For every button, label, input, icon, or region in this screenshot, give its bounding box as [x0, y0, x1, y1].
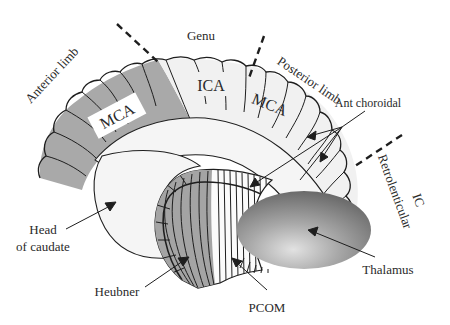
- anterior-genu-divider: [117, 24, 158, 62]
- internal-capsule-diagram: MCA ICA MCA Anterior limb Genu Posterior…: [0, 0, 450, 325]
- thalamus: [237, 191, 371, 269]
- thalamus-label: Thalamus: [362, 262, 413, 277]
- pcom-label: PCOM: [249, 300, 286, 315]
- heubner-label: Heubner: [95, 284, 140, 299]
- retrolenticular-ic-label: IC: [410, 191, 429, 208]
- ant-choroidal-label: Ant choroidal: [335, 96, 402, 110]
- head-of-caudate-label-line2: of caudate: [16, 239, 70, 254]
- genu-label: Genu: [187, 28, 216, 43]
- ica-label: ICA: [197, 77, 225, 94]
- retrolenticular-label: Retrolenticular: [375, 152, 416, 231]
- head-of-caudate-label-line1: Head: [29, 222, 57, 237]
